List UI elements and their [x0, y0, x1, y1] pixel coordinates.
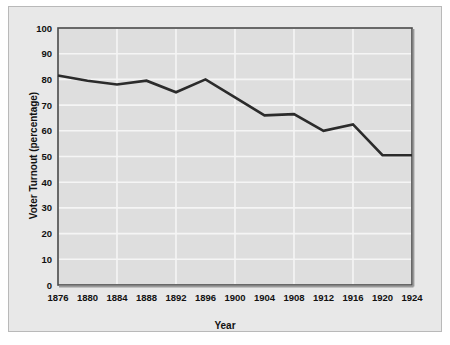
x-axis-tick-labels: 1876188018841888189218961900190419081912…	[47, 292, 423, 303]
y-tick-label: 40	[41, 177, 52, 188]
plot-wrapper: 0102030405060708090100 18761880188418881…	[0, 0, 450, 345]
y-tick-label: 80	[41, 74, 52, 85]
x-axis-title: Year	[0, 320, 450, 331]
x-tick-label: 1920	[372, 292, 393, 303]
x-tick-label: 1880	[77, 292, 98, 303]
x-tick-label: 1924	[401, 292, 423, 303]
y-tick-label: 90	[41, 48, 52, 59]
chart-figure: 0102030405060708090100 18761880188418881…	[0, 0, 450, 345]
x-tick-label: 1892	[165, 292, 186, 303]
y-tick-label: 10	[41, 254, 52, 265]
x-tick-label: 1900	[224, 292, 245, 303]
y-tick-label: 70	[41, 100, 52, 111]
y-tick-label: 30	[41, 202, 52, 213]
x-tick-label: 1916	[342, 292, 363, 303]
x-tick-label: 1876	[47, 292, 68, 303]
y-tick-label: 50	[41, 151, 52, 162]
x-tick-label: 1912	[313, 292, 334, 303]
y-tick-label: 20	[41, 228, 52, 239]
x-tick-label: 1884	[106, 292, 128, 303]
y-tick-label: 60	[41, 125, 52, 136]
y-tick-label: 0	[47, 280, 52, 291]
x-tick-label: 1888	[136, 292, 157, 303]
line-chart-svg: 0102030405060708090100 18761880188418881…	[0, 0, 450, 345]
y-axis-tick-labels: 0102030405060708090100	[36, 23, 52, 291]
y-axis-title: Voter Turnout (percentage)	[28, 76, 39, 236]
y-tick-label: 100	[36, 23, 52, 34]
x-tick-label: 1908	[283, 292, 304, 303]
x-tick-label: 1896	[195, 292, 216, 303]
x-tick-label: 1904	[254, 292, 276, 303]
